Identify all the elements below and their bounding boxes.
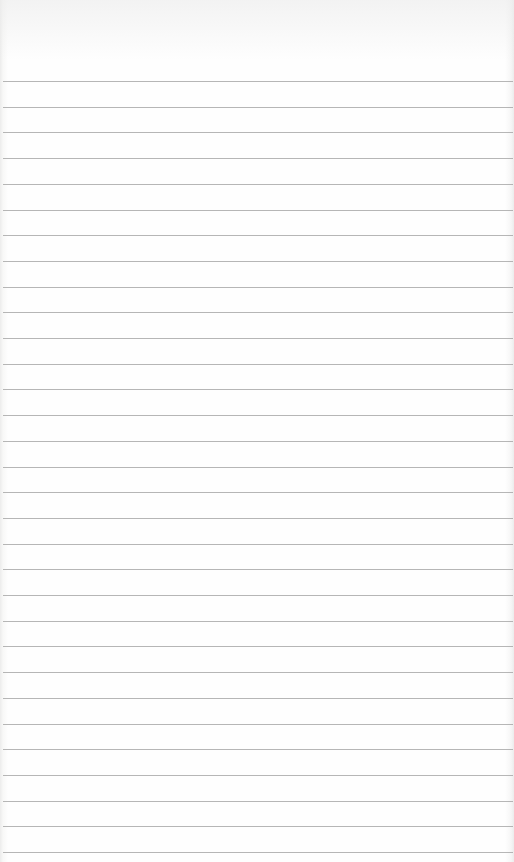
ruled-line: [3, 724, 513, 725]
ruled-line: [3, 389, 513, 390]
ruled-line: [3, 132, 513, 133]
ruled-line: [3, 210, 513, 211]
ruled-line: [3, 698, 513, 699]
ruled-line: [3, 467, 513, 468]
top-shadow: [0, 0, 514, 60]
ruled-line: [3, 158, 513, 159]
ruled-line: [3, 261, 513, 262]
ruled-line: [3, 775, 513, 776]
ruled-line: [3, 364, 513, 365]
ruled-line: [3, 287, 513, 288]
ruled-line: [3, 595, 513, 596]
ruled-line: [3, 852, 513, 853]
ruled-line: [3, 569, 513, 570]
ruled-line: [3, 672, 513, 673]
ruled-line: [3, 801, 513, 802]
ruled-line: [3, 312, 513, 313]
ruled-line: [3, 621, 513, 622]
ruled-line: [3, 235, 513, 236]
ruled-line: [3, 184, 513, 185]
lined-paper-sheet: [0, 0, 514, 862]
ruled-line: [3, 826, 513, 827]
ruled-line: [3, 492, 513, 493]
ruled-line: [3, 518, 513, 519]
ruled-line: [3, 749, 513, 750]
ruled-line: [3, 415, 513, 416]
ruled-line: [3, 338, 513, 339]
ruled-line: [3, 646, 513, 647]
ruled-line: [3, 441, 513, 442]
ruled-line: [3, 107, 513, 108]
ruled-line: [3, 81, 513, 82]
ruled-line: [3, 544, 513, 545]
